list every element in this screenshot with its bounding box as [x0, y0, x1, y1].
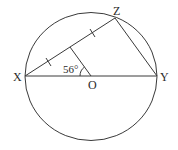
label-y: Y: [160, 70, 169, 84]
chord-zy: [115, 18, 157, 76]
label-o: O: [88, 78, 97, 92]
angle-arc: [80, 67, 85, 76]
angle-label: 56°: [63, 63, 78, 75]
label-x: X: [13, 70, 22, 84]
tick-mark-2: [90, 29, 95, 37]
label-z: Z: [113, 4, 120, 18]
circle-diagram: X Y Z O 56°: [0, 0, 178, 150]
